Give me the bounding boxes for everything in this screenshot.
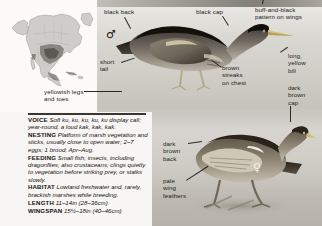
leader-yellowish-legs: [84, 91, 122, 92]
info-value: 15½–18in (40–46cm): [64, 207, 122, 214]
annotation-buff-and-black-wings: buff-and-black pattern on wings: [255, 6, 302, 21]
annotation-dark-brown-cap: dark brown cap: [288, 84, 305, 106]
annotation-short-tail: short tail: [100, 58, 114, 73]
info-key: HABITAT: [28, 183, 55, 190]
annotation-dark-brown-back: dark brown back: [163, 140, 180, 162]
info-key: VOICE: [28, 116, 48, 123]
info-key: FEEDING: [28, 154, 56, 161]
info-entry: HABITAT Lowland freshwater and, rarely, …: [28, 183, 148, 198]
annotation-pale-wing-feathers: pale wing feathers: [163, 177, 186, 199]
field-guide-page: ♂ ♀ black back black cap buff-and-black …: [0, 0, 322, 226]
info-entry: VOICE Soft ku, ku, ku, ku, ku display ca…: [28, 116, 148, 131]
species-info-block: VOICE Soft ku, ku, ku, ku, ku display ca…: [28, 116, 148, 214]
info-key: NESTING: [28, 131, 56, 138]
female-symbol: ♀: [253, 162, 261, 173]
info-key: LENGTH: [28, 199, 54, 206]
annotation-black-cap: black cap: [196, 8, 223, 15]
leader-dark-brown-cap: [290, 106, 291, 122]
north-america-range-map: [4, 4, 96, 88]
info-divider: [28, 113, 146, 115]
male-symbol: ♂: [106, 29, 116, 40]
info-value: 11–14in (28–36cm): [56, 199, 108, 206]
annotation-black-back: black back: [104, 8, 134, 15]
annotation-brown-streaks-chest: brown streaks on chest: [222, 64, 246, 86]
annotation-yellowish-legs-toes: yellowish legs and toes: [44, 88, 84, 103]
annotation-long-yellow-bill: long, yellow bill: [288, 52, 306, 74]
female-bittern-illustration: [166, 112, 316, 216]
info-entry: NESTING Platform of marsh vegetation and…: [28, 131, 148, 153]
info-entry: LENGTH 11–14in (28–36cm): [28, 199, 148, 206]
info-entry: WINGSPAN 15½–18in (40–46cm): [28, 207, 148, 214]
male-bittern-illustration: [108, 10, 298, 94]
info-key: WINGSPAN: [28, 207, 62, 214]
info-entry: FEEDING Small fish; insects, including d…: [28, 154, 148, 183]
